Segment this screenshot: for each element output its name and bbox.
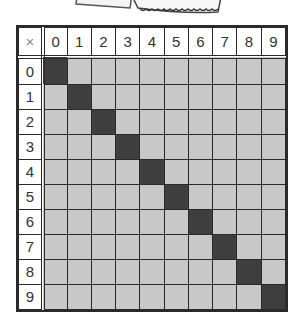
grid-cell <box>261 184 285 209</box>
grid-cell <box>213 259 237 284</box>
grid-cell <box>188 84 212 109</box>
diagonal-cell <box>116 134 140 159</box>
grid-cell <box>140 109 164 134</box>
grid-cell <box>164 234 188 259</box>
column-header: 7 <box>213 28 237 58</box>
row-header: 6 <box>19 209 43 234</box>
grid-cell <box>237 209 261 234</box>
row-header: 9 <box>19 284 43 309</box>
column-header: 3 <box>116 28 140 58</box>
grid-cell <box>164 134 188 159</box>
grid-cell <box>116 184 140 209</box>
grid-cell <box>67 284 91 309</box>
column-header: 0 <box>43 28 67 58</box>
diagonal-cell <box>237 259 261 284</box>
row-header: 2 <box>19 109 43 134</box>
grid-cell <box>116 57 140 84</box>
row-header: 0 <box>19 57 43 84</box>
grid-row: 6 <box>19 209 286 234</box>
grid-cell <box>237 57 261 84</box>
grid-cell <box>213 284 237 309</box>
grid-cell <box>116 109 140 134</box>
grid-cell <box>188 284 212 309</box>
diagonal-cell <box>164 184 188 209</box>
grid-cell <box>213 134 237 159</box>
stamp-graphic <box>72 0 232 18</box>
grid-cell <box>188 259 212 284</box>
grid-cell <box>43 234 67 259</box>
grid-cell <box>67 234 91 259</box>
header-row: × 0 1 2 3 4 5 6 7 8 9 <box>19 28 286 58</box>
row-header: 5 <box>19 184 43 209</box>
grid-cell <box>237 84 261 109</box>
grid-cell <box>116 284 140 309</box>
column-header: 1 <box>67 28 91 58</box>
grid-cell <box>140 234 164 259</box>
grid-row: 9 <box>19 284 286 309</box>
column-header: 9 <box>261 28 285 58</box>
grid-cell <box>116 209 140 234</box>
grid-body: 0123456789 <box>19 57 286 310</box>
diagonal-cell <box>43 57 67 84</box>
grid-cell <box>188 134 212 159</box>
grid-cell <box>188 184 212 209</box>
grid-cell <box>164 57 188 84</box>
grid-cell <box>91 184 115 209</box>
grid-cell <box>188 159 212 184</box>
grid-cell <box>213 109 237 134</box>
grid-cell <box>261 259 285 284</box>
grid-cell <box>188 234 212 259</box>
grid-cell <box>213 184 237 209</box>
grid-cell <box>43 184 67 209</box>
grid-cell <box>213 57 237 84</box>
grid-cell <box>140 84 164 109</box>
grid-row: 1 <box>19 84 286 109</box>
diagonal-cell <box>67 84 91 109</box>
grid-cell <box>67 134 91 159</box>
grid-cell <box>213 159 237 184</box>
grid-cell <box>91 159 115 184</box>
grid-cell <box>116 234 140 259</box>
grid-cell <box>261 209 285 234</box>
grid-cell <box>237 234 261 259</box>
grid-cell <box>67 159 91 184</box>
diagonal-cell <box>91 109 115 134</box>
grid-cell <box>237 284 261 309</box>
grid-cell <box>43 284 67 309</box>
grid-row: 2 <box>19 109 286 134</box>
row-header: 3 <box>19 134 43 159</box>
grid-cell <box>43 134 67 159</box>
grid-cell <box>43 159 67 184</box>
grid-cell <box>237 109 261 134</box>
grid-cell <box>140 284 164 309</box>
grid-cell <box>91 84 115 109</box>
grid-cell <box>237 184 261 209</box>
grid-cell <box>188 109 212 134</box>
grid-cell <box>43 109 67 134</box>
grid-cell <box>140 134 164 159</box>
grid-row: 4 <box>19 159 286 184</box>
grid-cell <box>43 209 67 234</box>
grid-cell <box>261 57 285 84</box>
grid-cell <box>140 57 164 84</box>
grid-cell <box>91 234 115 259</box>
grid-cell <box>213 209 237 234</box>
grid-cell <box>164 159 188 184</box>
grid-row: 0 <box>19 57 286 84</box>
column-header: 4 <box>140 28 164 58</box>
grid-cell <box>91 134 115 159</box>
grid-cell <box>188 57 212 84</box>
grid-cell <box>67 109 91 134</box>
grid-cell <box>237 134 261 159</box>
grid-row: 8 <box>19 259 286 284</box>
row-header: 1 <box>19 84 43 109</box>
grid-cell <box>140 259 164 284</box>
grid-cell <box>140 184 164 209</box>
grid-cell <box>213 84 237 109</box>
grid-cell <box>261 84 285 109</box>
grid-cell <box>164 284 188 309</box>
grid-cell <box>91 57 115 84</box>
grid-cell <box>91 209 115 234</box>
diagonal-cell <box>188 209 212 234</box>
grid-cell <box>67 184 91 209</box>
